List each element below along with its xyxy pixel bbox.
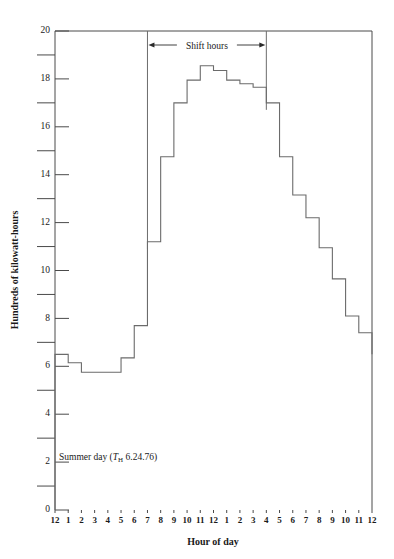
- x-tick-label: 7: [145, 515, 150, 525]
- y-axis-ticks: 02468101214161820: [37, 25, 69, 514]
- x-tick-label: 3: [92, 515, 97, 525]
- y-tick-label: 2: [45, 456, 50, 466]
- x-tick-label: 4: [264, 515, 269, 525]
- x-tick-label: 5: [119, 515, 124, 525]
- x-tick-label: 12: [209, 515, 219, 525]
- shift-hours-annotation: Shift hours: [147, 31, 266, 249]
- plot-frame: [55, 31, 372, 510]
- x-tick-label: 4: [106, 515, 111, 525]
- x-tick-label: 6: [132, 515, 137, 525]
- x-tick-label: 10: [183, 515, 193, 525]
- y-tick-label: 14: [41, 169, 51, 179]
- axis-frame: [55, 31, 372, 510]
- y-tick-label: 18: [41, 73, 51, 83]
- annotation-group: Summer day (TH 6.24.76): [59, 452, 157, 465]
- x-tick-label: 10: [341, 515, 351, 525]
- y-tick-label: 4: [45, 408, 50, 418]
- x-tick-label: 1: [66, 515, 71, 525]
- shift-hours-label: Shift hours: [186, 41, 228, 51]
- load-curve-step-chart: 02468101214161820 1212345678910111212345…: [0, 0, 394, 559]
- annotation-suffix: 6.24.76): [123, 452, 157, 463]
- y-tick-label: 12: [41, 217, 51, 227]
- y-tick-label: 16: [41, 121, 51, 131]
- annotation-prefix: Summer day (: [59, 452, 113, 463]
- x-tick-label: 7: [304, 515, 309, 525]
- step-load-curve: [55, 66, 372, 510]
- x-tick-label: 11: [196, 515, 205, 525]
- y-tick-label: 10: [41, 265, 51, 275]
- x-tick-label: 2: [238, 515, 243, 525]
- y-tick-label: 20: [41, 25, 51, 35]
- y-tick-label: 6: [45, 360, 50, 370]
- x-tick-label: 9: [172, 515, 177, 525]
- data-series-group: [55, 66, 372, 510]
- x-tick-label: 8: [317, 515, 322, 525]
- x-tick-label: 12: [51, 515, 61, 525]
- x-tick-label: 12: [368, 515, 378, 525]
- x-tick-label: 3: [251, 515, 256, 525]
- x-tick-label: 11: [355, 515, 364, 525]
- x-tick-label: 2: [79, 515, 84, 525]
- x-tick-label: 5: [277, 515, 282, 525]
- arrow-left-icon: [148, 42, 154, 47]
- arrow-right-icon: [259, 42, 265, 47]
- x-tick-label: 6: [291, 515, 296, 525]
- y-axis-title: Hundreds of kilowatt-hours: [9, 211, 20, 330]
- y-tick-label: 0: [45, 504, 50, 514]
- y-tick-label: 8: [45, 313, 50, 323]
- x-tick-label: 1: [224, 515, 229, 525]
- x-axis-title: Hour of day: [187, 536, 239, 547]
- x-axis-ticks: 12123456789101112123456789101112: [51, 510, 378, 525]
- x-tick-label: 8: [158, 515, 163, 525]
- x-tick-label: 9: [330, 515, 335, 525]
- summer-day-annotation: Summer day (TH 6.24.76): [59, 452, 157, 465]
- chart-figure: 02468101214161820 1212345678910111212345…: [0, 0, 394, 559]
